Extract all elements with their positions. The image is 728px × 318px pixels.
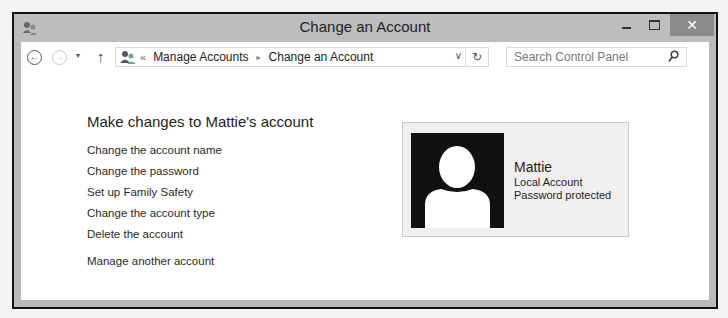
change-password-link[interactable]: Change the password xyxy=(87,164,222,185)
minimize-button[interactable] xyxy=(612,14,640,36)
manage-another-account-link[interactable]: Manage another account xyxy=(87,254,222,275)
account-info: Mattie Local Account Password protected xyxy=(514,159,611,201)
account-password-status: Password protected xyxy=(514,189,611,201)
close-button[interactable]: ✕ xyxy=(670,14,714,36)
breadcrumb-change-an-account[interactable]: Change an Account xyxy=(269,50,374,64)
refresh-button[interactable]: ↻ xyxy=(465,48,488,66)
minimize-icon xyxy=(622,27,631,29)
title-bar[interactable]: Change an Account ✕ xyxy=(14,14,716,42)
task-list: Change the account name Change the passw… xyxy=(87,143,222,275)
up-button[interactable]: ↑ xyxy=(97,48,105,65)
forward-button[interactable]: → xyxy=(52,50,67,65)
up-arrow-icon: ↑ xyxy=(97,48,105,65)
navigation-bar: ← → ▾ ↑ « Manage Accounts ▸ xyxy=(21,42,709,74)
maximize-button[interactable] xyxy=(640,14,668,36)
account-card: Mattie Local Account Password protected xyxy=(402,122,629,237)
chevron-down-icon: ▾ xyxy=(76,51,80,60)
breadcrumb-separator-icon[interactable]: ▸ xyxy=(257,53,261,62)
hidden-path-chevron[interactable]: « xyxy=(140,51,146,63)
window-content: ← → ▾ ↑ « Manage Accounts ▸ xyxy=(21,42,709,300)
recent-locations-button[interactable]: ▾ xyxy=(76,51,80,60)
close-icon: ✕ xyxy=(686,17,698,33)
back-button[interactable]: ← xyxy=(27,50,42,65)
forward-arrow-icon: → xyxy=(55,51,65,62)
account-name: Mattie xyxy=(514,159,611,175)
address-dropdown-icon[interactable]: ∨ xyxy=(455,50,462,61)
change-account-type-link[interactable]: Change the account type xyxy=(87,206,222,227)
delete-account-link[interactable]: Delete the account xyxy=(87,227,222,248)
address-bar[interactable]: « Manage Accounts ▸ Change an Account ∨ … xyxy=(115,47,489,67)
window-title: Change an Account xyxy=(14,18,716,35)
user-silhouette-icon xyxy=(411,133,504,228)
breadcrumb-manage-accounts[interactable]: Manage Accounts xyxy=(153,50,248,64)
search-input[interactable]: Search Control Panel xyxy=(506,47,687,67)
maximize-icon xyxy=(649,20,660,30)
search-placeholder: Search Control Panel xyxy=(514,50,628,64)
page-heading: Make changes to Mattie's account xyxy=(87,113,313,130)
back-arrow-icon: ← xyxy=(30,51,40,62)
account-type: Local Account xyxy=(514,176,611,188)
family-safety-link[interactable]: Set up Family Safety xyxy=(87,185,222,206)
user-accounts-icon xyxy=(120,50,136,64)
refresh-icon: ↻ xyxy=(472,50,482,64)
change-account-name-link[interactable]: Change the account name xyxy=(87,143,222,164)
search-icon[interactable] xyxy=(668,50,679,63)
change-account-window: Change an Account ✕ ← → ▾ ↑ xyxy=(12,12,718,309)
avatar xyxy=(411,133,504,228)
